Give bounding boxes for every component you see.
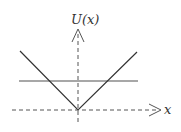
x-axis-label: x	[164, 102, 172, 117]
potential-diagram: U(x) x	[0, 0, 181, 132]
y-axis-label: U(x)	[71, 12, 99, 27]
